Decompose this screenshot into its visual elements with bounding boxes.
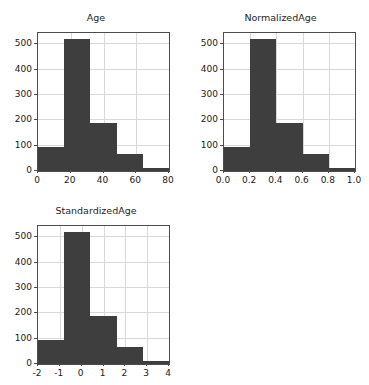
y-tick-label: 0 [26,165,32,175]
x-tick-mark [135,170,136,173]
y-tick-label: 200 [15,114,32,124]
histogram-bar [250,39,276,171]
plot-area [223,32,356,172]
y-tick-mark [34,312,37,313]
histogram-bar [64,39,90,171]
histogram-bar [117,347,143,364]
x-tick-mark [37,363,38,366]
x-tick-label: 1 [100,368,106,378]
y-tick-mark [220,69,223,70]
x-tick-mark [124,363,125,366]
subplot-title: StandardizedAge [18,205,174,217]
y-tick-label: 500 [201,38,218,48]
subplot-standardizedage: StandardizedAge -2-101234010020030040050… [0,201,186,385]
y-tick-label: 200 [15,307,32,317]
gridline-vertical [147,226,148,364]
x-tick-label: 40 [97,175,108,185]
x-tick-mark [302,170,303,173]
y-tick-mark [34,170,37,171]
y-tick-mark [220,170,223,171]
x-tick-label: 1.0 [347,175,361,185]
x-tick-label: 0.6 [294,175,308,185]
histogram-bar [329,168,355,171]
x-tick-label: 3 [143,368,149,378]
x-tick-mark [70,170,71,173]
histogram-bar [303,154,329,171]
x-tick-mark [223,170,224,173]
gridline-horizontal [224,94,355,95]
gridline-vertical [125,226,126,364]
x-tick-mark [37,170,38,173]
y-tick-label: 0 [212,165,218,175]
y-tick-mark [34,145,37,146]
x-tick-label: -2 [33,368,42,378]
y-tick-mark [34,69,37,70]
histogram-bar [38,340,64,364]
x-tick-label: 80 [162,175,173,185]
y-tick-label: 500 [15,231,32,241]
x-tick-label: 60 [130,175,141,185]
y-tick-mark [220,43,223,44]
y-tick-mark [34,119,37,120]
histogram-bar [224,147,250,171]
y-tick-label: 100 [15,140,32,150]
matplotlib-figure: Age 0204060800100200300400500 Normalized… [0,0,369,385]
x-tick-mark [146,363,147,366]
y-tick-mark [220,145,223,146]
histogram-bar [90,316,116,364]
gridline-vertical [329,33,330,171]
y-tick-label: 100 [201,140,218,150]
y-tick-mark [34,262,37,263]
histogram-bar [143,168,169,171]
histogram-bar [64,232,90,364]
y-tick-label: 200 [201,114,218,124]
y-tick-label: 500 [15,38,32,48]
gridline-horizontal [224,43,355,44]
y-tick-label: 400 [201,64,218,74]
y-tick-label: 100 [15,333,32,343]
y-tick-label: 400 [15,257,32,267]
x-tick-mark [249,170,250,173]
x-tick-label: 0.2 [242,175,256,185]
y-tick-label: 300 [15,282,32,292]
x-tick-label: 2 [121,368,127,378]
y-tick-mark [34,236,37,237]
x-tick-label: 0.0 [216,175,230,185]
subplot-title: NormalizedAge [204,12,357,24]
gridline-vertical [303,33,304,171]
x-tick-label: 0 [34,175,40,185]
histogram-bar [90,123,116,171]
x-tick-mark [168,170,169,173]
y-tick-label: 400 [15,64,32,74]
gridline-horizontal [224,69,355,70]
gridline-vertical [136,33,137,171]
y-tick-mark [34,363,37,364]
x-tick-label: 20 [64,175,75,185]
x-tick-mark [81,363,82,366]
y-tick-mark [34,287,37,288]
histogram-bar [38,147,64,171]
plot-area [37,32,170,172]
subplot-age: Age 0204060800100200300400500 [0,8,186,198]
x-tick-label: -1 [54,368,63,378]
y-tick-mark [34,338,37,339]
subplot-normalizedage: NormalizedAge 0.00.20.40.60.81.001002003… [186,8,369,198]
x-tick-label: 4 [165,368,171,378]
y-tick-mark [220,119,223,120]
histogram-bar [276,123,302,171]
x-tick-mark [354,170,355,173]
subplot-title: Age [18,12,174,24]
x-tick-mark [103,363,104,366]
x-tick-mark [168,363,169,366]
y-tick-label: 300 [15,89,32,99]
y-tick-label: 0 [26,358,32,368]
x-tick-label: 0 [78,368,84,378]
plot-area [37,225,170,365]
y-tick-label: 300 [201,89,218,99]
gridline-horizontal [224,119,355,120]
y-tick-mark [34,94,37,95]
y-tick-mark [34,43,37,44]
histogram-bar [117,154,143,171]
x-tick-label: 0.8 [321,175,335,185]
x-tick-label: 0.4 [268,175,282,185]
